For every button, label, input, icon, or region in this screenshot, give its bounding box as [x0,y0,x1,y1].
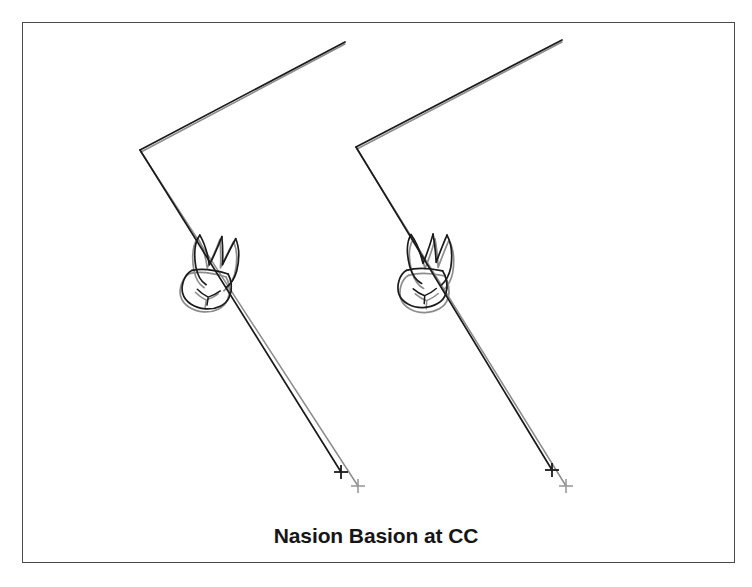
left-superimposition-panel [140,42,365,493]
figure-caption: Nasion Basion at CC [0,524,752,548]
right-black-landmark-cross [545,463,559,477]
figure-page: Nasion Basion at CC [0,0,752,587]
left-gray-nasion-basion-line [141,44,345,152]
left-gray-facial-axis-line [141,152,358,486]
right-gray-nasion-basion-line [357,42,562,149]
right-black-nasion-basion-line [356,40,562,147]
right-superimposition-panel [356,40,573,493]
left-black-molar [179,232,242,313]
left-black-nasion-basion-line [140,42,345,150]
right-black-molar [397,232,454,310]
left-gray-landmark-cross [351,479,365,493]
right-gray-landmark-cross [559,479,573,493]
left-black-tracing [140,42,348,479]
cephalometric-tracing-canvas [0,0,752,587]
left-gray-tracing [141,44,365,493]
right-black-tracing [356,40,562,477]
left-black-facial-axis-line [140,150,341,472]
right-gray-tracing [357,42,573,493]
right-black-facial-axis-line [356,147,552,470]
